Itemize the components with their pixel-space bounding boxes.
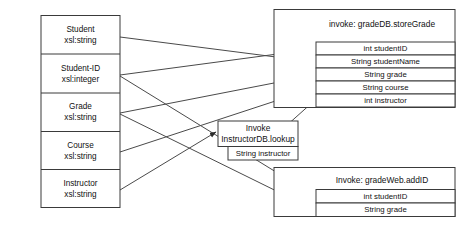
source-field-course-type: xsl:string	[64, 152, 97, 161]
gradedb-row-1-label: String studentName	[351, 57, 420, 66]
instructordb-header-line2: InstructorDB.lookup	[221, 134, 295, 144]
source-schema-box: Student xsl:string Student-ID xsl:intege…	[41, 16, 120, 208]
gradeweb-row-0-label: int studentID	[364, 192, 408, 201]
source-field-student-id-type: xsl:integer	[62, 75, 100, 84]
gradedb-row-2-label: String grade	[364, 70, 406, 79]
gradeweb-row-1-label: String grade	[364, 205, 406, 214]
source-field-student-type: xsl:string	[64, 36, 97, 45]
gradedb-row-0-label: int studentID	[364, 44, 408, 53]
source-field-student-id-name: Student-ID	[61, 64, 100, 73]
diagram-canvas: Student xsl:string Student-ID xsl:intege…	[0, 0, 476, 234]
instructordb-row-0-label: String instructor	[236, 149, 291, 158]
gradedb-header-label: invoke: gradeDB.storeGrade	[329, 19, 435, 29]
source-field-grade-name: Grade	[69, 102, 92, 111]
source-field-student-name: Student	[66, 25, 95, 34]
source-field-course-name: Course	[67, 141, 94, 150]
instructordb-header-line1: Invoke	[246, 123, 271, 133]
source-field-grade-type: xsl:string	[64, 113, 97, 122]
gradedb-row-3-label: String course	[363, 83, 409, 92]
gradeweb-header-label: Invoke: gradeWeb.addID	[336, 175, 429, 185]
target-box-instructordb: Invoke InstructorDB.lookup String instru…	[218, 121, 298, 160]
target-box-gradedb: invoke: gradeDB.storeGrade int studentID…	[274, 10, 455, 108]
mapping-diagram: Student xsl:string Student-ID xsl:intege…	[0, 0, 476, 234]
connector-instructor-to-lookup	[120, 132, 216, 190]
source-field-instructor-type: xsl:string	[64, 190, 97, 199]
gradedb-row-4-label: int instructor	[364, 96, 407, 105]
source-field-instructor-name: Instructor	[63, 179, 97, 188]
target-box-gradeweb: Invoke: gradeWeb.addID int studentID Str…	[274, 168, 455, 217]
